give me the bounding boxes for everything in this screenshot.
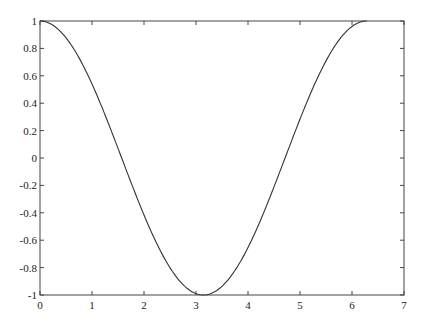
y-tick-label: -1: [28, 289, 37, 301]
y-tick-label: 0: [32, 152, 38, 164]
y-tick-label: 0.6: [23, 70, 37, 82]
x-tick-label: 0: [37, 299, 43, 311]
y-tick-label: -0.2: [20, 179, 37, 191]
y-tick-label: 0.8: [23, 42, 37, 54]
y-tick-label: -0.4: [20, 207, 38, 219]
x-tick-label: 1: [89, 299, 95, 311]
line-chart: 01234567 -1-0.8-0.6-0.4-0.200.20.40.60.8…: [0, 0, 427, 326]
y-axis-tick-labels: -1-0.8-0.6-0.4-0.200.20.40.60.81: [20, 15, 38, 301]
x-tick-label: 6: [349, 299, 355, 311]
y-tick-label: 0.2: [23, 125, 37, 137]
y-tick-label: -0.6: [20, 234, 38, 246]
x-tick-label: 3: [193, 299, 199, 311]
y-tick-label: -0.8: [20, 262, 38, 274]
x-tick-label: 4: [245, 299, 251, 311]
x-axis-tick-labels: 01234567: [37, 299, 407, 311]
x-tick-label: 7: [401, 299, 407, 311]
plot-area: [40, 21, 404, 295]
y-tick-label: 0.4: [23, 97, 37, 109]
y-tick-label: 1: [32, 15, 38, 27]
x-tick-label: 5: [297, 299, 303, 311]
x-tick-label: 2: [141, 299, 147, 311]
